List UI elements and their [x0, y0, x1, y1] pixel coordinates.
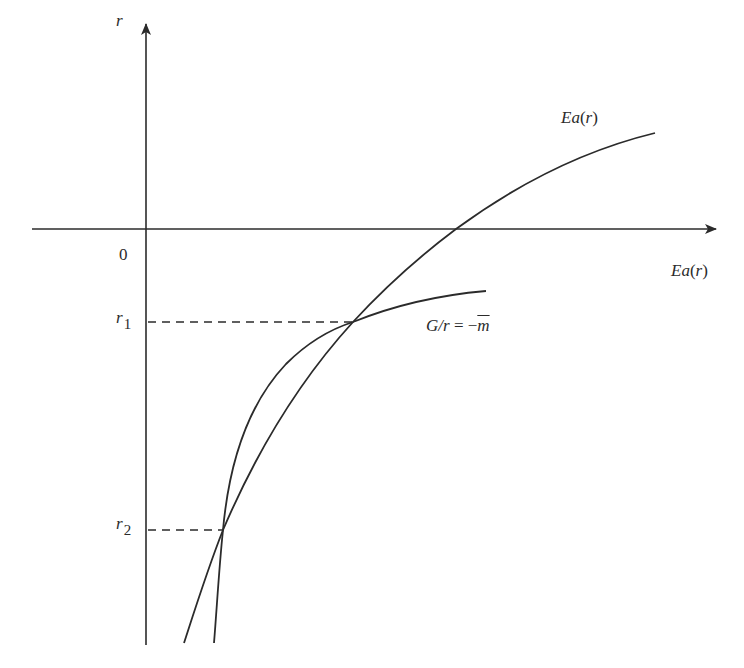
g-over-r-eq: = − — [450, 316, 478, 335]
r1-label-sub: 1 — [124, 316, 132, 332]
r2-label: r2 — [116, 515, 131, 532]
g-over-r-lhs: G/r — [426, 316, 450, 335]
diagram-canvas — [0, 0, 744, 668]
ea-curve-label-func: Ea — [561, 108, 580, 127]
g-over-r-rhs: m — [477, 316, 489, 335]
r2-label-base: r — [116, 514, 123, 533]
r1-label: r1 — [116, 309, 131, 326]
x-axis-label-close: ) — [702, 261, 708, 280]
g-over-r-curve-label: G/r = −m — [426, 317, 490, 334]
ea-curve — [184, 133, 655, 643]
ea-curve-label-close: ) — [592, 108, 598, 127]
r2-label-sub: 2 — [124, 522, 132, 538]
ea-curve-label: Ea(r) — [561, 109, 598, 126]
x-axis-label: Ea(r) — [671, 262, 708, 279]
r1-label-base: r — [116, 308, 123, 327]
g-over-r-curve — [214, 291, 486, 643]
y-axis-label: r — [116, 12, 123, 29]
origin-label: 0 — [119, 246, 128, 263]
x-axis-label-func: Ea — [671, 261, 690, 280]
